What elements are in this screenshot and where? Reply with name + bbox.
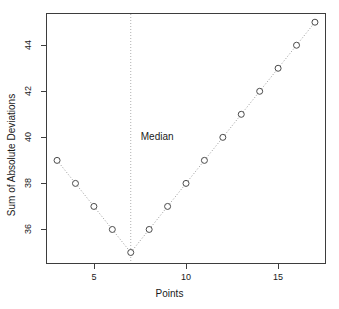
x-tick-mark bbox=[186, 264, 187, 269]
x-tick-label: 15 bbox=[273, 272, 283, 282]
plot-frame bbox=[46, 13, 326, 264]
x-tick-label: 5 bbox=[91, 272, 96, 282]
y-axis-title: Sum of Absolute Deviations bbox=[6, 93, 17, 215]
median-annotation-label: Median bbox=[141, 131, 174, 142]
y-tick-label: 40 bbox=[24, 128, 33, 146]
y-tick-label: 42 bbox=[24, 82, 33, 100]
y-tick-label: 36 bbox=[24, 220, 33, 238]
plot-area bbox=[47, 14, 325, 263]
x-axis-title: Points bbox=[0, 288, 339, 299]
chart-root: Sum of Absolute Deviations 3638404244 51… bbox=[0, 0, 339, 309]
x-tick-mark bbox=[278, 264, 279, 269]
x-tick-mark bbox=[94, 264, 95, 269]
y-tick-label: 38 bbox=[24, 174, 33, 192]
y-tick-label: 44 bbox=[24, 36, 33, 54]
x-tick-label: 10 bbox=[181, 272, 191, 282]
